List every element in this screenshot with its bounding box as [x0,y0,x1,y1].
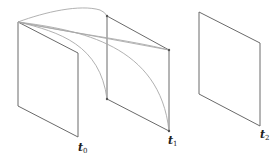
curve-to-t1-top-left [18,8,107,22]
frame-t2 [199,12,260,126]
frame-t0 [18,22,78,137]
corner-dot-t1-bottom-left [106,98,108,100]
diagram-canvas [0,0,279,161]
corner-dot-t1-top-right [168,49,170,51]
label-t2: t2 [260,129,270,142]
curve-to-t1-bottom-right [18,22,169,131]
corner-dot-t1-top-left [106,15,108,17]
label-t0: t0 [78,142,88,155]
frame-t1 [107,16,169,131]
curve-to-t1-bottom-left [18,22,107,99]
label-t1: t1 [168,135,178,148]
corner-dot-t1-bottom-right [168,130,170,132]
